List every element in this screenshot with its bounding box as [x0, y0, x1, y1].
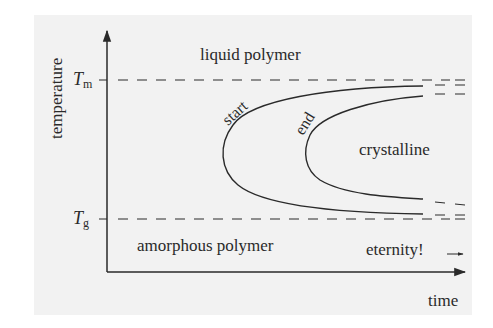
eternity-annotation: eternity! [366, 240, 424, 259]
ttt-diagram: temperature time Tm Tg liquid polymer cr… [0, 0, 493, 328]
region-amorphous-label: amorphous polymer [137, 236, 274, 255]
region-crystalline-label: crystalline [359, 140, 430, 159]
region-liquid-label: liquid polymer [200, 45, 301, 64]
tm-subscript: m [83, 77, 93, 91]
y-axis-label: temperature [47, 58, 66, 139]
tg-subscript: g [83, 216, 89, 230]
x-axis-label: time [428, 291, 458, 310]
